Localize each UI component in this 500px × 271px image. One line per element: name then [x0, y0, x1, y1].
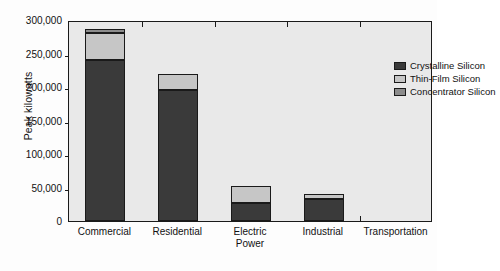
bar-group [85, 20, 125, 221]
bar-segment [158, 74, 198, 91]
y-axis-tick-mark [65, 123, 69, 124]
legend-item: Thin-Film Silicon [394, 73, 500, 84]
y-axis-tick-label: 150,000 [6, 117, 62, 127]
y-axis-tick-label: 100,000 [6, 150, 62, 160]
legend-swatch-icon [394, 88, 406, 96]
legend-item: Crystalline Silicon [394, 60, 500, 71]
bar-segment [231, 186, 271, 203]
x-axis-tick-label: Industrial [286, 226, 359, 238]
bar-group [158, 20, 198, 221]
bar-segment [158, 90, 198, 221]
y-axis-tick-mark [65, 156, 69, 157]
legend-item-label: Thin-Film Silicon [410, 74, 480, 84]
x-axis-tick-label-line: Commercial [68, 226, 141, 238]
bar-group [304, 20, 344, 221]
x-axis-tick-label: ElectricPower [214, 226, 287, 250]
bar-segment [85, 60, 125, 221]
top-axis-tick-mark [360, 22, 361, 27]
bar-group [377, 20, 417, 221]
y-axis-tick-label: 200,000 [6, 83, 62, 93]
legend-swatch-icon [394, 62, 406, 70]
bar-segment [231, 203, 271, 221]
legend: Crystalline SiliconThin-Film SiliconConc… [394, 60, 500, 99]
y-axis-tick-mark [65, 190, 69, 191]
bar-segment [304, 199, 344, 221]
y-axis-tick-mark [65, 56, 69, 57]
y-axis-tick-label: 50,000 [6, 184, 62, 194]
y-axis-tick-labels: 050,000100,000150,000200,000250,000300,0… [4, 0, 62, 271]
x-axis-tick-label-line: Power [214, 238, 287, 250]
bar-group [231, 20, 271, 221]
x-axis-tick-label-line: Transportation [359, 226, 432, 238]
x-axis-tick-label-line: Residential [141, 226, 214, 238]
legend-item: Concentrator Silicon [394, 86, 500, 97]
y-axis-tick-label: 0 [6, 217, 62, 227]
y-axis-tick-label: 250,000 [6, 50, 62, 60]
legend-item-label: Crystalline Silicon [410, 61, 485, 71]
x-axis-tick-label: Transportation [359, 226, 432, 238]
bar-segment [85, 33, 125, 60]
plot-area: Crystalline SiliconThin-Film SiliconConc… [68, 21, 432, 222]
x-axis-tick-mark [360, 216, 361, 221]
y-axis-tick-label: 300,000 [6, 16, 62, 26]
x-axis-tick-label: Residential [141, 226, 214, 238]
top-axis-tick-mark [142, 22, 143, 27]
top-axis-tick-mark [287, 22, 288, 27]
legend-item-label: Concentrator Silicon [410, 87, 496, 97]
bars-layer [69, 22, 431, 221]
y-axis-tick-mark [65, 89, 69, 90]
x-axis-tick-labels: CommercialResidentialElectricPowerIndust… [68, 226, 432, 270]
bar-segment [85, 29, 125, 33]
x-axis-tick-label: Commercial [68, 226, 141, 238]
legend-swatch-icon [394, 75, 406, 83]
x-axis-tick-label-line: Industrial [286, 226, 359, 238]
top-axis-tick-mark [215, 22, 216, 27]
bar-segment [304, 194, 344, 199]
x-axis-tick-label-line: Electric [214, 226, 287, 238]
